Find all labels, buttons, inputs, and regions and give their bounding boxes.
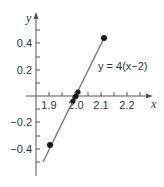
y-axis-label: y bbox=[25, 11, 32, 25]
x-tick-label: 2.1 bbox=[93, 99, 108, 111]
x-tick-label: 2.2 bbox=[119, 99, 134, 111]
y-axis-arrow-icon bbox=[34, 12, 39, 19]
y-tick-label: 0.2 bbox=[17, 64, 32, 76]
y-tick-label: −0.4 bbox=[10, 143, 32, 155]
x-axis-label: x bbox=[150, 97, 157, 111]
x-ticks bbox=[49, 92, 140, 96]
y-tick-label: 0.4 bbox=[17, 37, 32, 49]
chart: y x 0.4 0.2 −0.2 −0.4 1.9 2.0 2.1 2.2 bbox=[0, 0, 164, 187]
x-tick-label: 1.9 bbox=[41, 99, 56, 111]
y-tick-label: −0.2 bbox=[10, 116, 32, 128]
data-point bbox=[47, 142, 53, 148]
data-point bbox=[70, 98, 75, 103]
equation-label: y = 4(x−2) bbox=[98, 60, 148, 72]
data-points bbox=[47, 35, 107, 148]
data-point bbox=[101, 35, 107, 41]
